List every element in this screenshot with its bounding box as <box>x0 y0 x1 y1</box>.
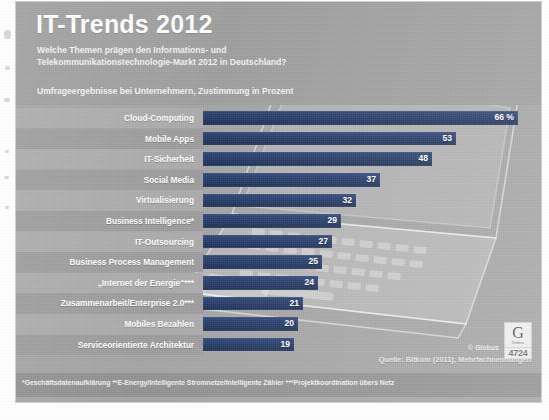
row-label: Mobile Apps <box>16 129 194 149</box>
bar-value: 24 <box>304 276 314 290</box>
bar <box>203 255 322 269</box>
chart-row: Business Process Management25 <box>16 252 541 272</box>
row-label: Business Intelligence* <box>16 211 194 231</box>
bar-value: 21 <box>289 297 299 311</box>
scan-speckle <box>5 150 9 153</box>
subtitle-line-1: Welche Themen prägen den Informations- u… <box>37 45 437 57</box>
chart-row: Zusammenarbeit/Enterprise 2.0***21 <box>16 293 541 313</box>
chart-row: Mobile Apps53 <box>16 129 541 149</box>
bar <box>203 297 303 311</box>
globus-letter: G <box>512 325 524 340</box>
bar <box>203 194 356 208</box>
chart-row: „Internet der Energie“***24 <box>16 273 541 293</box>
chart-row: Cloud-Computing66 % <box>16 108 541 128</box>
globus-g-icon: G Globus <box>504 322 532 348</box>
page-title: IT-Trends 2012 <box>36 10 213 39</box>
row-label: Zusammenarbeit/Enterprise 2.0*** <box>16 293 194 313</box>
bar <box>203 235 332 249</box>
bar <box>203 173 380 187</box>
bar <box>203 132 456 146</box>
chart-row: Business Intelligence*29 <box>16 211 541 231</box>
chart-row: IT-Sicherheit48 <box>16 149 541 169</box>
globus-logo: G Globus 4724 <box>503 322 533 359</box>
row-label: IT-Sicherheit <box>16 149 194 169</box>
footnote-text: *Geschäftsdatenaufklärung **E-Energy/Int… <box>22 379 394 386</box>
scanned-page: IT-Trends 2012 Welche Themen prägen den … <box>0 0 549 420</box>
source-note: Quelle: Bitkom (2011); Mehrfachnennungen <box>379 355 531 364</box>
chart-row: Social Media37 <box>16 170 541 190</box>
bar-chart: Cloud-Computing66 %Mobile Apps53IT-Siche… <box>16 105 541 373</box>
survey-note: Umfrageergebnisse bei Unternehmern, Zust… <box>37 86 293 96</box>
chart-row: Serviceorientierte Architektur19 <box>16 335 541 355</box>
bar-value: 20 <box>284 317 294 331</box>
infographic-panel: IT-Trends 2012 Welche Themen prägen den … <box>16 2 541 402</box>
globus-credit: © Globus <box>468 344 499 351</box>
bar <box>203 111 518 125</box>
bar-value: 25 <box>308 255 318 269</box>
bar <box>203 276 318 290</box>
subtitle: Welche Themen prägen den Informations- u… <box>37 45 437 68</box>
bar-value: 48 <box>418 152 428 166</box>
chart-row: IT-Outsourcing27 <box>16 232 541 252</box>
bar-value: 53 <box>442 132 452 146</box>
row-label: Serviceorientierte Architektur <box>16 335 194 355</box>
bar-value: 32 <box>342 194 352 208</box>
bar-value: 66 % <box>494 111 514 125</box>
bar <box>203 152 432 166</box>
scan-speckle <box>4 98 10 102</box>
chart-row: Virtualisierung32 <box>16 190 541 210</box>
row-label: Virtualisierung <box>16 190 194 210</box>
row-label: Business Process Management <box>16 252 194 272</box>
scan-speckle <box>4 176 9 179</box>
bar-value: 19 <box>280 338 290 352</box>
row-label: Cloud-Computing <box>16 108 194 128</box>
row-label: Mobiles Bezahlen <box>16 314 194 334</box>
bar-value: 37 <box>366 173 376 187</box>
chart-row: Mobiles Bezahlen20 <box>16 314 541 334</box>
bar-value: 29 <box>327 214 337 228</box>
scan-speckle <box>5 66 10 70</box>
row-label: Social Media <box>16 170 194 190</box>
scan-speckle <box>4 30 11 39</box>
row-label: IT-Outsourcing <box>16 232 194 252</box>
subtitle-line-2: Telekommunikationstechnologie-Markt 2012… <box>37 57 437 69</box>
bar-value: 27 <box>318 235 328 249</box>
row-label: „Internet der Energie“*** <box>16 273 194 293</box>
globus-wordmark: Globus <box>512 341 525 345</box>
scan-speckle <box>5 206 9 209</box>
bar <box>203 214 341 228</box>
footnote-band: *Geschäftsdatenaufklärung **E-Energy/Int… <box>16 373 541 397</box>
header-block: IT-Trends 2012 Welche Themen prägen den … <box>16 2 541 105</box>
